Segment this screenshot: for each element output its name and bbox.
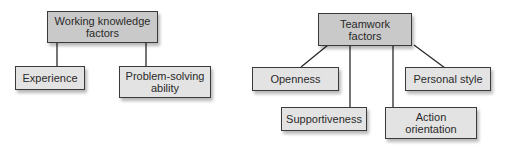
node-label: Action orientation [405, 111, 456, 135]
diagram-canvas: Working knowledge factors Experience Pro… [0, 0, 507, 150]
node-action-orientation: Action orientation [385, 107, 477, 139]
node-label: Teamwork factors [340, 18, 390, 42]
node-label: Openness [270, 73, 320, 85]
node-working-knowledge-factors: Working knowledge factors [47, 11, 158, 43]
node-experience: Experience [15, 66, 85, 90]
node-label: Problem-solving ability [126, 70, 205, 94]
node-label: Working knowledge factors [55, 15, 151, 39]
node-label: Personal style [413, 73, 482, 85]
node-problem-solving-ability: Problem-solving ability [119, 66, 211, 98]
node-teamwork-factors: Teamwork factors [318, 13, 412, 46]
node-personal-style: Personal style [405, 67, 491, 91]
node-label: Supportiveness [286, 113, 362, 125]
connector-teamwork-to-personal-style [414, 45, 445, 68]
node-supportiveness: Supportiveness [281, 107, 367, 131]
node-openness: Openness [252, 67, 339, 91]
connector-teamwork-to-openness [301, 45, 328, 67]
node-label: Experience [22, 72, 77, 84]
